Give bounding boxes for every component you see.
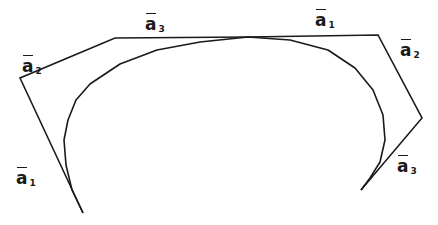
approximated-curve [64,37,385,213]
vector-subscript: 2 [35,66,41,76]
vector-label-a1-bottom-left: a1 [16,170,36,188]
vector-letter: a [16,170,27,187]
vector-letter: a [397,158,408,175]
vector-subscript: 3 [158,24,164,34]
vector-letter: a [315,12,326,29]
vector-label-a3-top: a3 [145,16,165,34]
vector-subscript: 3 [410,166,416,176]
diagram-svg [0,0,438,225]
control-polygon-right [248,35,422,190]
vector-label-a1-top: a1 [315,12,335,30]
vector-label-a3-bottom-right: a3 [397,158,417,176]
vector-subscript: 1 [328,20,334,30]
vector-label-a2-left: a2 [22,58,42,76]
vector-letter: a [400,42,411,59]
diagram-canvas: a2 a3 a1 a1 a2 a3 [0,0,438,225]
vector-letter: a [145,16,156,33]
vector-label-a2-right: a2 [400,42,420,60]
vector-subscript: 2 [413,50,419,60]
vector-letter: a [22,58,33,75]
control-polygon-left [20,37,248,213]
vector-subscript: 1 [29,178,35,188]
